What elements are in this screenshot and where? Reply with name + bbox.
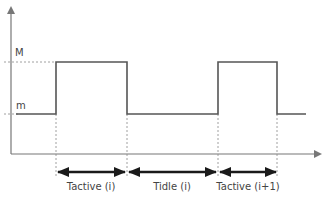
interval-label-2: Tidle (i): [152, 181, 191, 192]
square-wave-diagram: M m Tactive (i) Tidle (i) Tactive (i+1): [0, 0, 327, 204]
interval-label-1: Tactive (i): [66, 181, 116, 192]
square-wave-signal: [16, 62, 306, 114]
interval-label-3: Tactive (i+1): [215, 181, 279, 192]
low-level-label: m: [16, 100, 26, 111]
high-level-label: M: [15, 47, 24, 58]
